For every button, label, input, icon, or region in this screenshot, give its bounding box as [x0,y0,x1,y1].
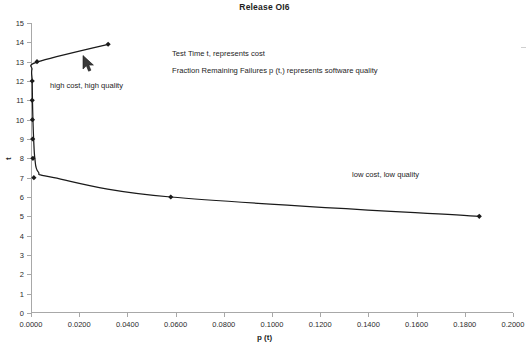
x-tick [79,313,80,317]
y-tick-label: 8 [20,154,24,163]
y-axis-title: t [4,157,13,160]
annotation-low-cost-low-quality: low cost, low quality [352,170,419,179]
x-tick [368,313,369,317]
scan-artifact [521,47,526,48]
x-tick [31,313,32,317]
y-tick-label: 3 [20,251,24,260]
mouse-pointer-icon [82,55,96,73]
data-point-marker [477,214,482,219]
x-tick-label: 0.0200 [68,320,91,329]
x-tick [465,313,466,317]
chart-title: Release OI6 [0,2,529,12]
x-tick [176,313,177,317]
y-tick-label: 12 [16,77,24,86]
x-tick [417,313,418,317]
data-point-marker [30,98,35,103]
x-tick-label: 0.1800 [453,320,476,329]
y-tick-label: 2 [20,270,24,279]
data-point-marker [30,117,35,122]
x-tick-label: 0.2000 [502,320,525,329]
x-tick [320,313,321,317]
y-tick-label: 1 [20,289,24,298]
data-point-marker [31,175,36,180]
x-tick-label: 0.0000 [20,320,43,329]
x-tick-label: 0.1000 [261,320,284,329]
annotation-quality: Fraction Remaining Failures p (t,) repre… [172,66,378,75]
x-tick-label: 0.1400 [357,320,380,329]
y-tick-label: 11 [16,96,24,105]
x-tick [127,313,128,317]
data-point-marker [30,78,35,83]
y-tick-label: 5 [20,212,24,221]
y-tick-label: 0 [20,309,24,318]
x-tick-label: 0.1600 [405,320,428,329]
annotation-cost: Test Time t, represents cost [172,49,265,58]
chart-container: Release OI6 0123456789101112131415 0.000… [0,0,529,349]
x-tick-label: 0.0800 [212,320,235,329]
x-tick-label: 0.0600 [164,320,187,329]
y-tick-label: 7 [20,173,24,182]
data-point-marker [168,194,173,199]
x-tick [272,313,273,317]
y-tick-label: 9 [20,135,24,144]
x-tick [224,313,225,317]
y-tick-label: 13 [16,57,24,66]
y-tick-label: 4 [20,231,24,240]
x-tick-label: 0.1200 [309,320,332,329]
x-tick [513,313,514,317]
y-tick-label: 14 [16,38,24,47]
x-tick-label: 0.0400 [116,320,139,329]
data-point-marker [34,59,39,64]
y-tick-label: 6 [20,193,24,202]
data-point-marker [106,42,111,47]
annotation-high-cost-high-quality: high cost, high quality [50,81,123,90]
y-tick-label: 15 [16,19,24,28]
x-axis-title: p (t) [0,333,529,342]
y-tick-label: 10 [16,115,24,124]
data-point-marker [30,136,35,141]
